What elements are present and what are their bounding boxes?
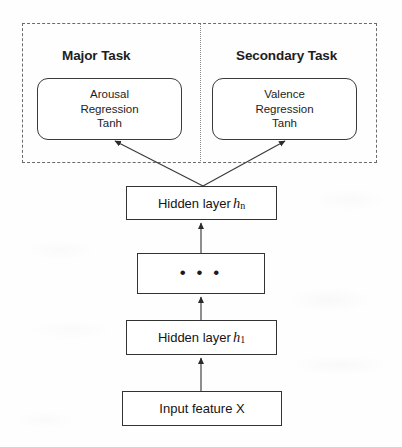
- valence-line-1: Valence: [264, 87, 305, 102]
- arousal-line-1: Arousal: [90, 87, 129, 102]
- arousal-regression-box: Arousal Regression Tanh: [37, 78, 182, 140]
- hidden-layer-n-label: Hidden layer: [158, 196, 231, 211]
- ellipsis-layer-box: • • •: [137, 253, 265, 294]
- architecture-diagram: Major Task Secondary Task Arousal Regres…: [0, 0, 402, 447]
- input-feature-box: Input feature X: [122, 391, 282, 426]
- arousal-line-2: Regression: [80, 102, 138, 117]
- hidden-layer-n-box: Hidden layerhn: [126, 186, 277, 220]
- hidden-layer-1-subscript: 1: [240, 334, 245, 345]
- hidden-layer-n-subscript: n: [240, 200, 245, 211]
- hidden-layer-1-label: Hidden layer: [158, 330, 231, 345]
- major-task-label: Major Task: [62, 48, 131, 63]
- input-feature-label: Input feature X: [159, 401, 244, 416]
- valence-line-3: Tanh: [272, 116, 297, 131]
- hidden-layer-1-var: h: [231, 329, 240, 346]
- valence-line-2: Regression: [255, 102, 313, 117]
- task-region-divider: [200, 24, 201, 163]
- arousal-line-3: Tanh: [97, 116, 122, 131]
- hidden-layer-1-box: Hidden layerh1: [126, 320, 277, 355]
- hidden-layer-n-var: h: [231, 195, 240, 212]
- ellipsis-glyph: • • •: [180, 268, 222, 278]
- valence-regression-box: Valence Regression Tanh: [212, 78, 357, 140]
- secondary-task-label: Secondary Task: [236, 48, 337, 63]
